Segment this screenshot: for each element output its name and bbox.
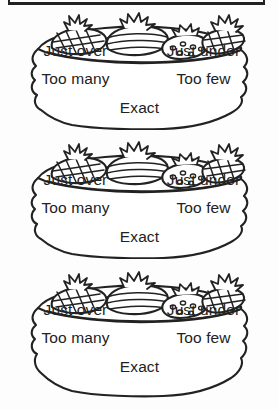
option-too-few-3[interactable]: Too few [142,329,266,347]
option-too-many-2[interactable]: Too many [14,199,138,217]
option-just-over-2[interactable]: Just over [14,171,138,189]
option-just-over-1[interactable]: Just over [14,42,138,60]
option-just-under-1[interactable]: Just under [142,42,266,60]
option-just-over-3[interactable]: Just over [14,301,138,319]
card-3-row-exact: Exact [0,358,279,376]
option-too-many-1[interactable]: Too many [14,70,138,88]
card-1-row-just: Just over Just under [0,42,279,60]
option-exact-1[interactable]: Exact [0,99,279,117]
card-3-row-amount: Too many Too few [0,329,279,347]
option-exact-2[interactable]: Exact [0,228,279,246]
card-2-row-exact: Exact [0,228,279,246]
card-2-row-just: Just over Just under [0,171,279,189]
option-exact-3[interactable]: Exact [0,358,279,376]
option-just-under-2[interactable]: Just under [142,171,266,189]
basket-card-1[interactable]: Just over Just under Too many Too few Ex… [0,4,279,130]
card-1-row-exact: Exact [0,99,279,117]
card-3-row-just: Just over Just under [0,301,279,319]
option-too-many-3[interactable]: Too many [14,329,138,347]
card-2-row-amount: Too many Too few [0,199,279,217]
option-too-few-1[interactable]: Too few [142,70,266,88]
option-just-under-3[interactable]: Just under [142,301,266,319]
option-too-few-2[interactable]: Too few [142,199,266,217]
worksheet-sheet: Just over Just under Too many Too few Ex… [0,0,279,409]
card-1-row-amount: Too many Too few [0,70,279,88]
basket-card-3[interactable]: Just over Just under Too many Too few Ex… [0,263,279,409]
basket-card-2[interactable]: Just over Just under Too many Too few Ex… [0,133,279,259]
